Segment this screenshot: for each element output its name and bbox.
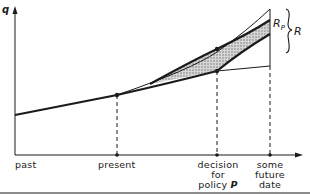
x-axis xyxy=(15,153,303,158)
present-tick xyxy=(115,153,119,157)
x-label-future: some future date xyxy=(252,160,288,190)
r-label: R xyxy=(294,27,302,37)
x-label-decision: decision for policy P xyxy=(192,160,244,190)
present-point xyxy=(115,93,119,97)
outer-upper-curve xyxy=(117,9,270,95)
rp-upper-curve xyxy=(150,20,270,84)
bottom-rule xyxy=(0,192,310,194)
y-axis-label: q xyxy=(2,5,9,15)
x-axis-arrow-icon xyxy=(295,153,303,158)
r-brace-icon xyxy=(286,9,292,53)
rp-label: RP xyxy=(273,19,285,33)
x-label-decision-symbol: P xyxy=(231,179,238,190)
trend-line xyxy=(15,71,217,115)
x-label-past: past xyxy=(15,160,36,170)
rp-label-main: R xyxy=(273,17,281,30)
y-axis xyxy=(13,6,18,155)
future-tick xyxy=(268,153,272,157)
x-label-decision-line3: policy P xyxy=(192,180,244,190)
rp-label-sub: P xyxy=(281,24,285,32)
decision-tick xyxy=(215,153,219,157)
decision-upper-point xyxy=(215,47,219,51)
y-axis-arrow-icon xyxy=(13,6,18,14)
baseline-forecast xyxy=(217,66,270,71)
x-label-future-line3: date xyxy=(252,180,288,190)
x-label-decision-policy: policy xyxy=(198,179,227,190)
decision-lower-point xyxy=(215,69,219,73)
x-label-present: present xyxy=(98,160,136,170)
